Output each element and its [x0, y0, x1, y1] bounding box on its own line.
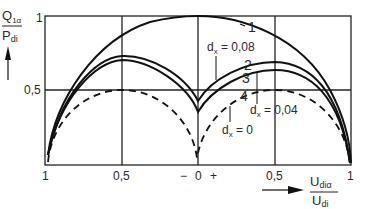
x-label-numerator: Udiα — [310, 174, 332, 190]
curve-label-1: 1 — [248, 19, 256, 35]
y-label-numerator: Q1α — [2, 8, 22, 25]
grid — [45, 16, 351, 165]
x-tick-right-0.5: 0,5 — [266, 169, 283, 183]
x-tick-left-1: 1 — [42, 169, 49, 183]
y-axis-label: Q1α Pdi — [2, 8, 22, 80]
annotation-dx-0.08: dx = 0,08 — [207, 40, 255, 56]
y-tick-0.5: 0,5 — [24, 83, 41, 97]
annotation-dx-0: dx = 0 — [222, 123, 253, 139]
curve-label-4: 4 — [240, 88, 248, 104]
x-tick-center-0: 0 — [195, 169, 202, 183]
x-tick-right-1: 1 — [347, 169, 354, 183]
annotation-dx-0.04: dx = 0,04 — [250, 103, 298, 119]
curve-label-1-leader — [240, 24, 245, 26]
x-axis-arrow-icon — [288, 186, 304, 194]
x-label-denominator: Udi — [312, 193, 328, 209]
x-plus-sign: + — [210, 169, 217, 183]
y-label-denominator: Pdi — [2, 28, 18, 44]
x-minus-sign: − — [180, 169, 187, 183]
x-tick-left-0.5: 0,5 — [113, 169, 130, 183]
diagram-canvas: 1 2 3 4 dx = 0,08 dx = 0,04 dx = 0 Q1α P… — [0, 0, 370, 209]
curve-label-3: 3 — [242, 70, 250, 86]
y-axis-arrow-icon — [5, 46, 11, 60]
y-tick-1: 1 — [36, 11, 43, 25]
